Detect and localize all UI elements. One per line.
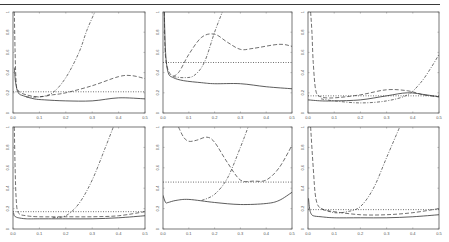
x-tick-label: 0.1 — [37, 115, 43, 120]
y-tick-label: 0 — [5, 227, 10, 230]
x-tick-label: 0.0 — [10, 231, 16, 236]
y-tick-label: 0.6 — [5, 164, 10, 170]
x-tick-label: 0.5 — [142, 115, 148, 120]
x-tick-label: 0.4 — [263, 115, 269, 120]
x-tick-label: 0.3 — [89, 231, 95, 236]
y-tick-label: 0.6 — [300, 49, 305, 55]
y-tick-label: 0.8 — [300, 144, 305, 150]
x-tick-label: 0.2 — [358, 231, 364, 236]
x-tick-label: 0.0 — [305, 231, 311, 236]
series-dashed-line — [14, 12, 145, 97]
chart-panel-top-left: 0.00.10.20.30.40.500.20.40.60.81 — [5, 10, 149, 120]
chart-panel-bottom-middle: 0.00.10.20.30.40.500.20.40.60.81 — [155, 125, 296, 236]
y-tick-label: 0.8 — [155, 144, 160, 150]
y-tick-label: 1 — [300, 125, 305, 128]
x-tick-label: 0.1 — [331, 115, 337, 120]
y-tick-label: 0.2 — [300, 205, 305, 211]
y-tick-label: 0.6 — [5, 49, 10, 55]
y-tick-label: 0.2 — [300, 89, 305, 95]
y-tick-label: 0 — [155, 111, 160, 114]
y-tick-label: 0.8 — [5, 144, 10, 150]
y-tick-label: 0.2 — [5, 205, 10, 211]
y-tick-label: 1 — [155, 10, 160, 13]
x-tick-label: 0.4 — [410, 231, 416, 236]
x-tick-label: 0.3 — [238, 115, 244, 120]
series-solid-line — [309, 198, 439, 217]
plot-frame — [13, 127, 145, 229]
x-tick-label: 0.0 — [160, 115, 166, 120]
x-tick-label: 0.0 — [10, 115, 16, 120]
x-tick-label: 0.5 — [436, 231, 442, 236]
plot-frame — [308, 127, 439, 229]
series-solid-line — [163, 192, 292, 204]
x-tick-label: 0.1 — [37, 231, 43, 236]
series-dashdot-line — [202, 127, 248, 200]
x-tick-label: 0.3 — [384, 115, 390, 120]
x-tick-label: 0.3 — [238, 231, 244, 236]
y-tick-label: 0.6 — [300, 164, 305, 170]
x-tick-label: 0.2 — [63, 231, 69, 236]
y-tick-label: 0.8 — [300, 29, 305, 35]
x-tick-label: 0.2 — [212, 115, 218, 120]
series-dashed-line — [178, 127, 292, 182]
plot-frame — [163, 12, 292, 113]
series-dashed-line — [164, 12, 292, 76]
x-tick-label: 0.2 — [212, 231, 218, 236]
y-tick-label: 0.4 — [300, 69, 305, 75]
y-tick-label: 0 — [300, 111, 305, 114]
x-tick-label: 0.4 — [263, 231, 269, 236]
y-tick-label: 0.6 — [155, 49, 160, 55]
x-tick-label: 0.0 — [160, 231, 166, 236]
x-tick-label: 0.0 — [305, 115, 311, 120]
y-tick-label: 0.2 — [5, 89, 10, 95]
x-tick-label: 0.4 — [410, 115, 416, 120]
y-tick-label: 0.4 — [300, 185, 305, 191]
y-tick-label: 1 — [5, 125, 10, 128]
series-solid-line — [14, 213, 145, 219]
x-tick-label: 0.2 — [63, 115, 69, 120]
y-tick-label: 0.4 — [155, 185, 160, 191]
y-tick-label: 0.6 — [155, 164, 160, 170]
series-dashdot-line — [26, 12, 95, 97]
y-tick-label: 0.8 — [5, 29, 10, 35]
x-tick-label: 0.4 — [116, 115, 122, 120]
series-dashed-line — [311, 127, 439, 215]
series-dashdot-line — [173, 12, 222, 78]
x-tick-label: 0.5 — [436, 115, 442, 120]
x-tick-label: 0.5 — [289, 231, 295, 236]
chart-panel-top-right: 0.00.10.20.30.40.500.20.40.60.81 — [300, 10, 443, 120]
y-tick-label: 0.4 — [155, 69, 160, 75]
y-tick-label: 0.2 — [155, 89, 160, 95]
x-tick-label: 0.5 — [142, 231, 148, 236]
x-tick-label: 0.5 — [289, 115, 295, 120]
x-tick-label: 0.2 — [358, 115, 364, 120]
x-tick-label: 0.3 — [384, 231, 390, 236]
y-tick-label: 0.2 — [155, 205, 160, 211]
series-dashed-line — [14, 127, 145, 217]
chart-panel-bottom-right: 0.00.10.20.30.40.500.20.40.60.81 — [300, 125, 443, 236]
x-tick-label: 0.1 — [186, 115, 192, 120]
y-tick-label: 0 — [5, 111, 10, 114]
chart-panel-bottom-left: 0.00.10.20.30.40.500.20.40.60.81 — [5, 125, 149, 236]
y-tick-label: 0.4 — [5, 185, 10, 191]
x-tick-label: 0.3 — [89, 115, 95, 120]
y-tick-label: 0.8 — [155, 29, 160, 35]
x-tick-label: 0.1 — [331, 231, 337, 236]
series-dashed-line — [311, 12, 439, 98]
x-tick-label: 0.4 — [116, 231, 122, 236]
y-tick-label: 0 — [155, 227, 160, 230]
chart-panel-top-middle: 0.00.10.20.30.40.500.20.40.60.81 — [155, 10, 296, 120]
series-dashdot-line — [53, 127, 114, 218]
y-tick-label: 1 — [300, 10, 305, 13]
figure-grid: 0.00.10.20.30.40.500.20.40.60.810.00.10.… — [0, 0, 449, 242]
series-dashdot-line — [321, 127, 400, 213]
x-tick-label: 0.1 — [186, 231, 192, 236]
y-tick-label: 1 — [5, 10, 10, 13]
y-tick-label: 0 — [300, 227, 305, 230]
y-tick-label: 0.4 — [5, 69, 10, 75]
y-tick-label: 1 — [155, 125, 160, 128]
series-solid-line — [164, 12, 292, 89]
